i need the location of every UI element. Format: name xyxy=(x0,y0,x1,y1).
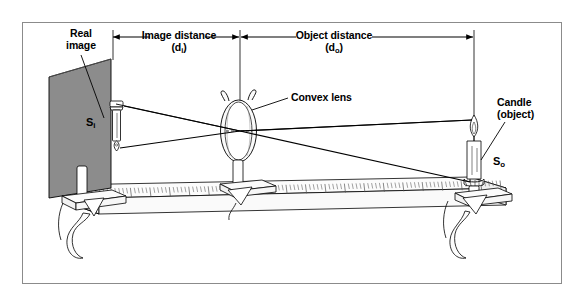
label-candle-line1: Candle xyxy=(497,96,531,108)
candle-object xyxy=(464,115,484,186)
light-rays xyxy=(116,104,472,182)
subscript-o: o xyxy=(500,160,505,169)
leader-convex-lens xyxy=(252,98,288,110)
label-convex-lens: Convex lens xyxy=(291,91,352,103)
figure-canvas: Real image Image distance (di) Object di… xyxy=(0,0,584,307)
label-real-image: Real image xyxy=(52,27,110,51)
label-object-distance-symbol: (do) xyxy=(325,41,343,53)
label-image-distance-text: Image distance xyxy=(142,29,216,41)
label-real-image-line2: image xyxy=(66,39,96,51)
label-real-image-line1: Real xyxy=(70,27,92,39)
subscript-i: i xyxy=(93,121,95,130)
real-image-candle xyxy=(110,101,123,151)
label-candle: Candle (object) xyxy=(497,96,557,120)
optical-bench xyxy=(63,177,506,214)
label-image-distance-symbol: (di) xyxy=(171,41,186,53)
label-s-image: Si xyxy=(86,116,95,130)
label-object-distance-text: Object distance xyxy=(296,29,373,41)
label-object-distance: Object distance (do) xyxy=(292,29,376,56)
label-s-object: So xyxy=(493,155,505,169)
convex-lens xyxy=(221,90,257,162)
label-candle-line2: (object) xyxy=(497,108,534,120)
label-image-distance: Image distance (di) xyxy=(140,29,218,56)
